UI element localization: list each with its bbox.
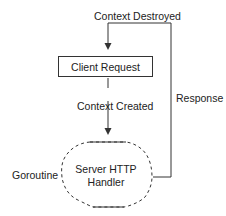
handler-line-2: Handler: [62, 176, 150, 189]
context-destroyed-label: Context Destroyed: [94, 10, 181, 22]
context-created-label: Context Created: [77, 100, 153, 112]
goroutine-label: Goroutine: [12, 169, 58, 181]
server-http-handler-node: Server HTTP Handler: [62, 163, 150, 189]
handler-line-1: Server HTTP: [62, 163, 150, 176]
response-label: Response: [176, 92, 223, 104]
client-request-node: Client Request: [58, 56, 153, 77]
